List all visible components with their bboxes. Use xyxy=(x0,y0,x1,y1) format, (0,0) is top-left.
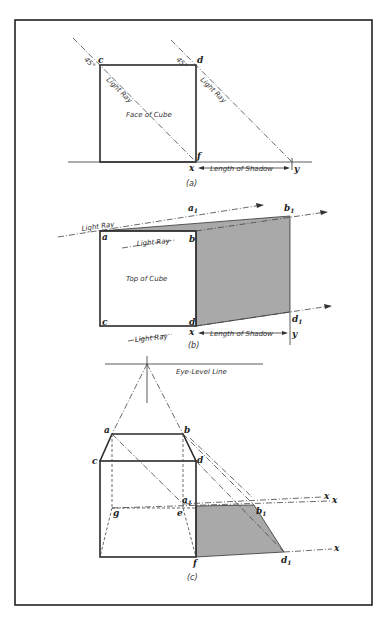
point-b1: b1 xyxy=(284,203,294,214)
light-ray-label-left: Light Ray xyxy=(105,76,135,106)
point-b: b xyxy=(184,425,190,435)
light-ray-right xyxy=(171,40,292,162)
length-of-shadow-label-a: Length of Shadow xyxy=(210,165,273,173)
ray-arrow-a xyxy=(256,203,264,208)
point-d: d xyxy=(189,317,196,327)
panel-a: c d f x y 45° 45° Light Ray Light Ray Fa… xyxy=(68,38,312,188)
caption-b: (b) xyxy=(188,341,199,350)
point-a: a xyxy=(102,232,108,242)
arrowhead-right-b xyxy=(282,331,288,335)
point-a1: a1 xyxy=(182,495,192,506)
vp-line-a xyxy=(112,364,147,434)
hidden-edge-e-f xyxy=(183,508,196,557)
angle-label-right: 45° xyxy=(174,56,188,70)
arrowhead-left xyxy=(198,166,204,170)
point-d1: d1 xyxy=(292,314,302,325)
point-b1: b1 xyxy=(256,506,266,517)
point-c: c xyxy=(102,317,108,327)
point-x: x xyxy=(188,327,195,337)
point-d: d xyxy=(197,55,204,65)
point-x2: x xyxy=(331,495,338,505)
point-y: y xyxy=(293,164,300,174)
point-d1: d1 xyxy=(281,555,291,566)
point-a1: a1 xyxy=(188,203,198,214)
point-f: f xyxy=(196,151,203,161)
eye-level-line-label: Eye-Level Line xyxy=(176,368,227,376)
point-x1: x xyxy=(323,491,330,501)
panel-b: a b c d x y a1 b1 d1 Light Ray Light Ray… xyxy=(58,203,332,350)
length-of-shadow-label-b: Length of Shadow xyxy=(210,330,273,338)
point-e: e xyxy=(177,508,183,518)
ray-line-x3 xyxy=(284,549,332,552)
point-c: c xyxy=(98,55,104,65)
light-ray-label-bottom: Light Ray xyxy=(134,332,168,343)
point-a: a xyxy=(104,425,110,435)
ray-arrow-d xyxy=(324,304,332,309)
face-of-cube-label: Face of Cube xyxy=(126,111,172,119)
arrowhead-left-b xyxy=(198,331,204,335)
angle-label-left: 45° xyxy=(82,56,96,70)
shadow-region xyxy=(196,505,284,557)
arrowhead-right xyxy=(284,166,290,170)
top-of-cube-label: Top of Cube xyxy=(126,275,167,283)
caption-c: (c) xyxy=(187,573,198,582)
point-g: g xyxy=(113,508,119,518)
point-c: c xyxy=(92,456,98,466)
shadow-region xyxy=(100,216,290,326)
point-y: y xyxy=(291,329,298,339)
point-f: f xyxy=(192,558,199,568)
point-b: b xyxy=(189,234,195,244)
ray-arrow-b xyxy=(320,210,328,215)
light-ray-label-right: Light Ray xyxy=(199,76,229,106)
point-x3: x xyxy=(333,543,340,553)
light-ray-label-mid: Light Ray xyxy=(136,237,170,248)
light-ray-extra xyxy=(190,438,252,497)
cube-top-back xyxy=(100,434,196,461)
point-d: d xyxy=(197,455,204,465)
hidden-edge-g-bottom xyxy=(100,508,112,557)
light-ray-b-b1 xyxy=(183,434,254,505)
panel-c: Eye-Level Line a b c d g e f a1 b1 d1 xyxy=(92,356,340,582)
ray-line-x1 xyxy=(183,497,322,504)
light-ray-a-a1 xyxy=(112,434,183,504)
figure-border xyxy=(15,20,372,605)
cube-shadow-figure: c d f x y 45° 45° Light Ray Light Ray Fa… xyxy=(0,0,387,620)
point-x: x xyxy=(188,163,195,173)
caption-a: (a) xyxy=(186,179,197,188)
